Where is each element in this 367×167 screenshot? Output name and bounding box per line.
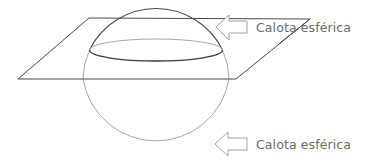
spherical-cap-dome xyxy=(90,8,223,50)
spherical-cap-diagram: Calota esférica Calota esférica xyxy=(0,0,367,167)
label-top-cap: Calota esférica xyxy=(256,20,351,35)
sphere-side-outline xyxy=(83,50,229,79)
label-bottom-cap: Calota esférica xyxy=(256,137,351,152)
arrow-left-icon xyxy=(215,132,247,156)
sphere-lower-outline xyxy=(83,79,229,141)
cap-base-front-edge xyxy=(90,50,223,61)
cap-base-back-edge xyxy=(90,39,223,50)
